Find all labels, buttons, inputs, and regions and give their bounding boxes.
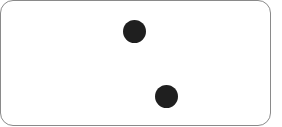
domino-tile[interactable] xyxy=(0,0,271,126)
pip-icon xyxy=(123,20,146,43)
pip-icon xyxy=(155,85,178,108)
